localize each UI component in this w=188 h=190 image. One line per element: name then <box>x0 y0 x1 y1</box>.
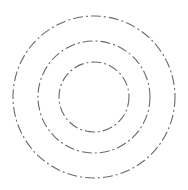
inner-dashed-circle <box>59 62 129 132</box>
outer-dashed-circle <box>13 16 175 178</box>
concentric-dashed-circles-diagram <box>0 0 188 190</box>
middle-dashed-circle <box>38 41 150 153</box>
